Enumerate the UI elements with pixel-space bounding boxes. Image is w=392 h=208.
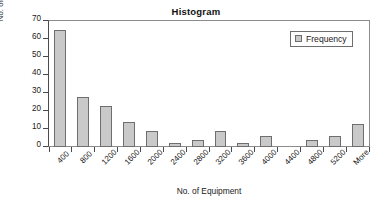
bar-slot xyxy=(72,21,95,147)
bar xyxy=(215,131,227,147)
x-axis-tick-label: 400 xyxy=(56,149,72,165)
bar xyxy=(123,122,135,147)
y-axis-tick-label: 70 xyxy=(32,14,41,24)
bar-slot xyxy=(163,21,186,147)
x-axis-label-cell: 4000 xyxy=(255,152,278,182)
bar xyxy=(329,136,341,147)
bar-slot xyxy=(255,21,278,147)
x-axis-label-cell: 1600 xyxy=(118,152,141,182)
y-axis-tick-label: 30 xyxy=(32,86,41,96)
y-axis-tick-label: 50 xyxy=(32,50,41,60)
x-axis-title: No. of Equipment xyxy=(48,186,370,196)
bar xyxy=(306,140,318,147)
x-axis-label-cell: 2000 xyxy=(140,152,163,182)
x-axis-tick-label: 800 xyxy=(79,149,95,165)
x-axis-label-cell: 4400 xyxy=(278,152,301,182)
bar xyxy=(192,140,204,147)
bar xyxy=(260,136,272,147)
bar-slot xyxy=(49,21,72,147)
bar-slot xyxy=(118,21,141,147)
x-axis-label-cell: 3200 xyxy=(209,152,232,182)
y-axis-tick-label: 40 xyxy=(32,68,41,78)
chart-title: Histogram xyxy=(0,6,392,17)
x-axis-label-cell: More xyxy=(346,152,369,182)
bar xyxy=(352,124,364,147)
legend-swatch-frequency-icon xyxy=(295,35,302,42)
y-axis-tick-label: 60 xyxy=(32,32,41,42)
x-axis-label-cell: 400 xyxy=(49,152,72,182)
x-axis-label-cell: 1200 xyxy=(95,152,118,182)
bar-slot xyxy=(232,21,255,147)
bar-slot xyxy=(140,21,163,147)
bar-slot xyxy=(95,21,118,147)
histogram-chart: Histogram No. of Respondents 01020304050… xyxy=(0,0,392,208)
bar xyxy=(100,106,112,147)
y-axis-tick-label: 10 xyxy=(32,122,41,132)
bar-slot xyxy=(209,21,232,147)
x-axis-label-cell: 3600 xyxy=(232,152,255,182)
bar xyxy=(77,97,89,147)
legend-label-frequency: Frequency xyxy=(306,34,347,44)
bar xyxy=(54,30,66,147)
y-axis-tick-label: 20 xyxy=(32,104,41,114)
y-axis-tick-label: 0 xyxy=(36,140,41,150)
bar xyxy=(146,131,158,147)
x-axis-labels: 4008001200160020002400280032003600400044… xyxy=(49,152,369,182)
legend: Frequency xyxy=(290,31,353,47)
x-axis-label-cell: 2400 xyxy=(163,152,186,182)
x-axis-label-cell: 4800 xyxy=(300,152,323,182)
x-axis-label-cell: 2800 xyxy=(186,152,209,182)
y-axis-ticks: 010203040506070 xyxy=(0,20,48,147)
x-axis-label-cell: 800 xyxy=(72,152,95,182)
bar-slot xyxy=(186,21,209,147)
x-axis-label-cell: 5200 xyxy=(323,152,346,182)
